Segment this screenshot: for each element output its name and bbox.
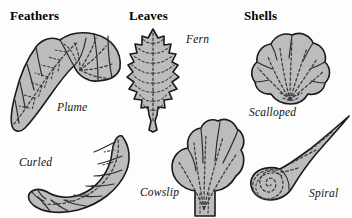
figure-label-plume: Plume [57,101,87,113]
figure-label-cowslip: Cowslip [140,186,179,198]
column-heading-shells: Shells [244,8,277,24]
figure-cowslip [168,113,246,217]
figure-label-spiral: Spiral [309,187,338,199]
figure-label-curled: Curled [19,156,52,168]
figure-plume [8,20,128,142]
figure-scalloped [251,26,331,108]
figure-label-fern: Fern [186,33,209,45]
illustration-plate: Feathers Leaves Shells [0,0,352,218]
figure-curled [18,130,136,216]
column-heading-leaves: Leaves [129,8,168,24]
